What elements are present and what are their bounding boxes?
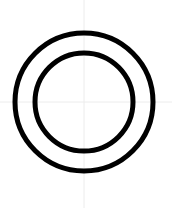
concentric-circles-figure [0,0,172,208]
figure-canvas [0,0,172,208]
